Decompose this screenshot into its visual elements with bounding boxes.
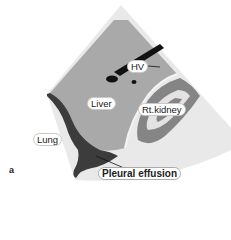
label-lung: Lung xyxy=(33,133,62,146)
label-pleural-effusion: Pleural effusion xyxy=(98,167,181,180)
vessel-cross-section xyxy=(106,76,118,83)
panel-letter: a xyxy=(9,165,14,175)
label-kidney: Rt.kidney xyxy=(138,103,186,116)
label-hv: HV xyxy=(127,60,148,73)
label-liver: Liver xyxy=(87,97,116,110)
vessel-dot xyxy=(132,80,137,84)
